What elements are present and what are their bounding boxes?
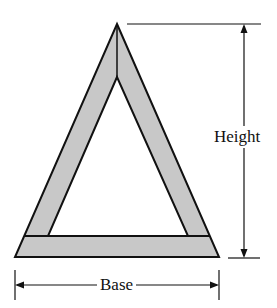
- base-label: Base: [97, 276, 136, 294]
- height-arrow-up-icon: [241, 24, 248, 33]
- base-arrow-right-icon: [210, 282, 219, 289]
- height-label: Height: [214, 126, 260, 148]
- height-arrow-down-icon: [241, 249, 248, 258]
- base-arrow-left-icon: [15, 282, 24, 289]
- diagram-canvas: [0, 0, 277, 308]
- triangle-frame-diagram: Height Base: [0, 0, 277, 308]
